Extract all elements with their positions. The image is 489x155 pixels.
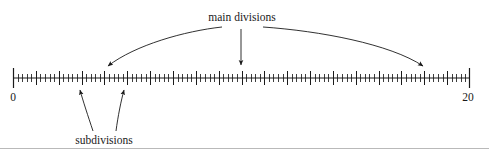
subdivisions-label: subdivisions — [75, 134, 133, 146]
subdivisions-arrow-left — [80, 90, 93, 131]
axis-label-end: 20 — [462, 91, 474, 103]
diagram-canvas: main divisions subdivisions 0 20 — [0, 0, 489, 155]
subdivisions-pointers — [80, 90, 124, 131]
axis-label-start: 0 — [10, 91, 16, 103]
main-divisions-arrow-left — [108, 27, 222, 66]
subdivisions-arrow-right — [116, 90, 124, 131]
main-divisions-arrow-right — [263, 27, 423, 66]
ruler-diagram: main divisions subdivisions 0 20 — [0, 0, 489, 155]
main-divisions-label: main divisions — [208, 11, 276, 23]
main-divisions-pointers — [108, 27, 423, 66]
